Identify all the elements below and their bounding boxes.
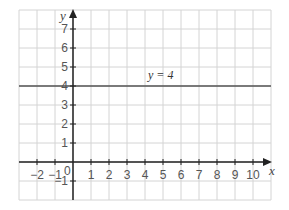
svg-text:6: 6 xyxy=(61,41,68,55)
svg-text:2: 2 xyxy=(106,168,113,182)
svg-text:1: 1 xyxy=(88,168,95,182)
line-label: y = 4 xyxy=(147,68,173,82)
svg-text:3: 3 xyxy=(124,168,131,182)
x-axis-label: x xyxy=(268,163,275,178)
origin-label: 0 xyxy=(64,164,71,178)
svg-text:8: 8 xyxy=(214,168,221,182)
svg-text:7: 7 xyxy=(196,168,203,182)
svg-text:6: 6 xyxy=(178,168,185,182)
svg-text:10: 10 xyxy=(246,168,260,182)
svg-text:1: 1 xyxy=(61,136,68,150)
coordinate-grid-chart: −2−112345678910−11234567 x y 0 y = 4 xyxy=(0,0,289,210)
svg-text:4: 4 xyxy=(142,168,149,182)
svg-text:5: 5 xyxy=(160,168,167,182)
svg-text:2: 2 xyxy=(61,117,68,131)
svg-text:5: 5 xyxy=(61,60,68,74)
svg-text:−2: −2 xyxy=(30,168,44,182)
svg-text:4: 4 xyxy=(61,79,68,93)
svg-text:9: 9 xyxy=(232,168,239,182)
svg-text:3: 3 xyxy=(61,98,68,112)
svg-text:7: 7 xyxy=(61,22,68,36)
y-axis-label: y xyxy=(58,8,66,23)
